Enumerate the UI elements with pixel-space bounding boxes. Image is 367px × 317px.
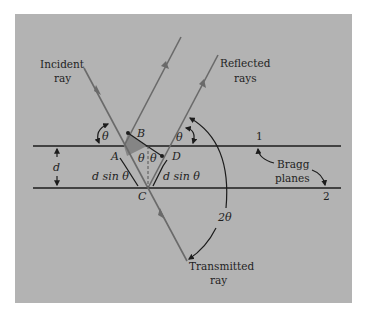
two-theta-label: 2θ [217,211,232,224]
plane-2-label: 2 [323,190,330,202]
incident-label-line1: Incident [40,58,85,70]
bragg-label-line1: Bragg [277,158,310,170]
path-left-label: d sin θ [92,170,129,183]
point-c-label: C [138,190,147,203]
point-d-marker [160,154,164,158]
theta-left-c-label: θ [138,152,145,165]
theta-incident-label: θ [102,130,109,143]
bragg-diffraction-diagram: Incident ray Reflected rays Transmitted … [0,0,367,317]
transmitted-label-line1: Transmitted [189,260,254,272]
bragg-label-line2: planes [275,172,310,184]
path-right-label: d sin θ [163,170,200,183]
reflected-label-line1: Reflected [220,57,271,69]
plane-1-label: 1 [256,130,263,142]
point-b-marker [126,131,130,135]
theta-reflected-label: θ [176,131,183,144]
transmitted-label-line2: ray [210,274,227,286]
theta-right-c-label: θ [150,152,157,165]
incident-label-line2: ray [54,72,71,84]
point-b-label: B [136,127,145,140]
point-a-label: A [110,150,119,163]
point-d-label: D [171,150,181,163]
spacing-d-label: d [53,161,60,174]
reflected-label-line2: rays [234,72,257,84]
